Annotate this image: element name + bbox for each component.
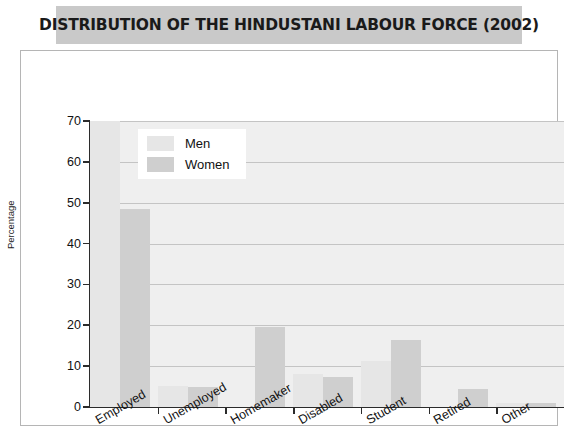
x-axis-tick bbox=[225, 407, 227, 414]
y-axis-labels: 010203040506070 bbox=[47, 121, 81, 407]
y-axis-tick-label: 0 bbox=[51, 400, 81, 414]
y-axis-tick-label: 40 bbox=[51, 237, 81, 251]
legend-label-women: Women bbox=[185, 157, 230, 172]
legend-swatch-women-icon bbox=[147, 157, 174, 172]
chart-card: 010203040506070 Percentage Men Women Emp… bbox=[20, 50, 558, 426]
y-axis-tick-label: 70 bbox=[51, 114, 81, 128]
chart-title-bar: DISTRIBUTION OF THE HINDUSTANI LABOUR FO… bbox=[56, 6, 522, 44]
bar-men-student bbox=[361, 361, 391, 407]
legend-swatch-men-icon bbox=[147, 136, 174, 151]
y-axis-tick-label: 10 bbox=[51, 359, 81, 373]
y-axis-title: Percentage bbox=[5, 200, 16, 249]
bar-women-employed bbox=[120, 209, 150, 407]
x-axis-tick bbox=[429, 407, 431, 414]
plot-area: Men Women bbox=[89, 121, 564, 408]
y-axis-tick-label: 50 bbox=[51, 196, 81, 210]
chart-figure: DISTRIBUTION OF THE HINDUSTANI LABOUR FO… bbox=[0, 0, 578, 435]
page-title: DISTRIBUTION OF THE HINDUSTANI LABOUR FO… bbox=[39, 16, 539, 34]
x-axis-labels: EmployedUnemployedHomemakerDisabledStude… bbox=[89, 415, 563, 435]
x-axis-tick bbox=[496, 407, 498, 414]
y-axis-tick-label: 30 bbox=[51, 277, 81, 291]
legend-item-women: Women bbox=[147, 157, 230, 172]
y-axis-tick-label: 20 bbox=[51, 318, 81, 332]
chart-legend: Men Women bbox=[138, 129, 246, 179]
legend-label-men: Men bbox=[185, 136, 210, 151]
bar-men-employed bbox=[90, 121, 120, 407]
legend-item-men: Men bbox=[147, 136, 230, 151]
x-axis-tick bbox=[293, 407, 295, 414]
y-axis-tick-label: 60 bbox=[51, 155, 81, 169]
x-axis-tick bbox=[361, 407, 363, 414]
x-axis-tick bbox=[158, 407, 160, 414]
